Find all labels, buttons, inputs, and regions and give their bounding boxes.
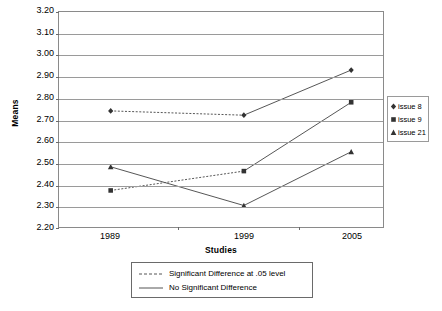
line-style-entry: No Significant Difference xyxy=(138,281,312,295)
series-segment xyxy=(244,102,351,171)
y-axis-title: Means xyxy=(10,83,20,143)
y-axis-tick-label: 2.50 xyxy=(26,158,54,167)
data-point-marker xyxy=(242,169,247,174)
y-axis-tick-label: 2.40 xyxy=(26,180,54,189)
triangle-marker-icon xyxy=(390,127,397,138)
y-axis-tick-label: 2.90 xyxy=(26,71,54,80)
y-axis-tickmark xyxy=(56,207,59,208)
data-point-marker xyxy=(349,67,354,73)
solid-line-icon xyxy=(138,283,164,293)
line-style-label: Significant Difference at .05 level xyxy=(169,269,285,279)
y-axis-tickmark xyxy=(56,55,59,56)
gridline xyxy=(59,99,383,100)
series-issue-9 xyxy=(108,100,353,193)
y-axis-tick-label: 2.80 xyxy=(26,93,54,102)
data-point-marker xyxy=(348,149,354,154)
y-axis-tick-labels: 3.203.103.002.902.802.702.602.502.402.30… xyxy=(22,0,54,311)
data-point-marker xyxy=(391,117,396,122)
x-axis-tickmark xyxy=(299,227,300,230)
line-chart: Means 3.203.103.002.902.802.702.602.502.… xyxy=(0,0,442,311)
square-marker-icon xyxy=(390,114,397,125)
series-lines xyxy=(59,12,383,227)
series-legend: issue 8issue 9issue 21 xyxy=(387,96,429,142)
gridline xyxy=(59,121,383,122)
series-segment xyxy=(111,171,244,190)
data-point-marker xyxy=(108,108,113,114)
gridline xyxy=(59,34,383,35)
y-axis-tick-label: 3.10 xyxy=(26,28,54,37)
series-segment xyxy=(244,152,351,206)
y-axis-tick-label: 3.00 xyxy=(26,49,54,58)
data-point-marker xyxy=(108,188,113,193)
data-point-marker xyxy=(391,104,396,110)
legend-entry-issue-9[interactable]: issue 9 xyxy=(390,113,428,126)
x-axis-tick-label: 2005 xyxy=(322,231,382,242)
gridline xyxy=(59,77,383,78)
legend-label: issue 21 xyxy=(398,128,426,137)
y-axis-tickmark xyxy=(56,228,59,229)
line-style-entry: Significant Difference at .05 level xyxy=(138,267,312,281)
data-point-marker xyxy=(349,100,354,105)
y-axis-tickmark xyxy=(56,12,59,13)
y-axis-tickmark xyxy=(56,77,59,78)
series-issue-8 xyxy=(108,67,354,118)
diamond-marker-icon xyxy=(390,101,397,112)
y-axis-tick-label: 2.70 xyxy=(26,115,54,124)
plot-area xyxy=(58,11,384,228)
line-style-legend: Significant Difference at .05 levelNo Si… xyxy=(131,262,313,298)
x-axis-tick-label: 1999 xyxy=(214,231,274,242)
legend-label: issue 9 xyxy=(398,115,422,124)
y-axis-tickmark xyxy=(56,186,59,187)
x-axis-tickmark xyxy=(178,227,179,230)
x-axis-title: Studies xyxy=(58,245,384,255)
gridline xyxy=(59,164,383,165)
series-segment xyxy=(111,111,244,115)
gridline xyxy=(59,55,383,56)
y-axis-tickmark xyxy=(56,121,59,122)
y-axis-tickmark xyxy=(56,34,59,35)
y-axis-tickmark xyxy=(56,164,59,165)
data-point-marker xyxy=(241,112,246,118)
y-axis-tick-label: 2.20 xyxy=(26,223,54,232)
gridline xyxy=(59,142,383,143)
y-axis-tick-label: 3.20 xyxy=(26,6,54,15)
x-axis-tick-labels: 198919992005 xyxy=(58,231,384,245)
y-axis-tick-label: 2.30 xyxy=(26,201,54,210)
data-point-marker xyxy=(391,130,397,135)
y-axis-tickmark xyxy=(56,142,59,143)
line-style-label: No Significant Difference xyxy=(169,283,257,293)
series-issue-21 xyxy=(108,149,354,208)
dashed-line-icon xyxy=(138,269,164,279)
gridline xyxy=(59,186,383,187)
x-axis-tick-label: 1989 xyxy=(80,231,140,242)
legend-entry-issue-21[interactable]: issue 21 xyxy=(390,126,428,139)
gridline xyxy=(59,207,383,208)
legend-label: issue 8 xyxy=(398,102,422,111)
y-axis-tickmark xyxy=(56,99,59,100)
legend-entry-issue-8[interactable]: issue 8 xyxy=(390,100,428,113)
y-axis-tick-label: 2.60 xyxy=(26,136,54,145)
